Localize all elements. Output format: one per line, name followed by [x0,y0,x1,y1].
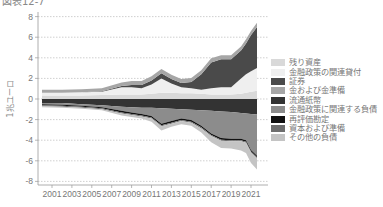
y-tick-label: 4 [28,53,33,63]
y-tick-label: -6 [25,156,33,166]
y-tick-label: 0 [28,94,33,104]
area-series [42,27,257,93]
y-tick-label: -2 [25,115,33,125]
y-tick-label: -8 [25,176,33,186]
x-tick-label: 2011 [142,189,161,199]
legend-item: 残り資産 [271,58,377,67]
x-tick-label: 2005 [82,189,101,199]
legend-swatch [271,116,285,123]
legend-swatch [271,78,285,85]
legend-label: その他の負債 [289,133,337,142]
legend-item: 金融政策の関連貸付 [271,67,377,76]
x-tick-label: 2017 [202,189,221,199]
x-tick-label: 2013 [162,189,181,199]
legend-swatch [271,134,285,141]
y-axis-label: 1兆ユーロ [5,80,15,117]
y-tick-label: -4 [25,135,33,145]
legend-label: 金および金準備 [289,86,345,95]
y-tick-label: 8 [28,12,33,22]
legend-label: 金融政策に関連する負債 [289,105,377,114]
legend-swatch [271,106,285,113]
x-tick-label: 2019 [222,189,241,199]
legend-item: 金および金準備 [271,86,377,95]
y-tick-label: 6 [28,32,33,42]
stacked-areas [42,23,257,170]
y-tick-label: 2 [28,73,33,83]
x-tick-label: 2001 [43,189,62,199]
x-tick-label: 2007 [102,189,121,199]
x-tick-label: 2003 [62,189,81,199]
legend-swatch [271,125,285,132]
legend-swatch [271,87,285,94]
x-tick-label: 2021 [242,189,261,199]
legend-swatch [271,59,285,66]
x-tick-label: 2015 [182,189,201,199]
legend-swatch [271,97,285,104]
legend-item: 金融政策に関連する負債 [271,105,377,114]
legend-label: 残り資産 [289,58,321,67]
legend-item: その他の負債 [271,133,377,142]
x-tick-label: 2009 [122,189,141,199]
legend-swatch [271,69,285,76]
legend: 残り資産金融政策の関連貸付証券金および金準備流通紙幣金融政策に関連する負債再評価… [271,58,377,143]
